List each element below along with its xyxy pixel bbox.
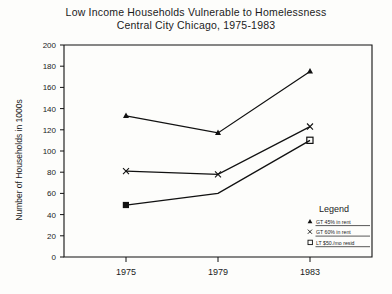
legend-item-gt-45[interactable]: GT 45% in rent [308, 219, 370, 226]
x-tick-labels: 1975 1979 1983 [116, 267, 320, 277]
y-tick-label: 160 [43, 83, 57, 92]
series-gt-45-in-rent [123, 68, 313, 135]
y-tick-label: 100 [43, 147, 57, 156]
line-chart-svg: Number of Households in 1000s 200 180 16… [0, 0, 392, 294]
y-tick-label: 140 [43, 105, 57, 114]
legend: Legend GT 45% in rent GT 60% in rent LT … [308, 204, 370, 247]
plot-frame [64, 45, 372, 257]
x-tick-label: 1979 [208, 267, 228, 277]
legend-label: GT 45% in rent [316, 219, 351, 225]
y-tick-label: 0 [52, 253, 57, 262]
x-axis-ticks [126, 257, 310, 262]
y-tick-label: 80 [47, 168, 56, 177]
y-tick-label: 120 [43, 126, 57, 135]
y-tick-label: 40 [47, 211, 56, 220]
x-tick-label: 1983 [300, 267, 320, 277]
square-marker-icon [308, 240, 312, 244]
y-tick-label: 200 [43, 41, 57, 50]
y-axis-ticks [60, 45, 64, 257]
legend-item-lt-50[interactable]: LT $50./mo resid [308, 240, 370, 247]
chart-root: Low Income Households Vulnerable to Home… [0, 0, 392, 294]
legend-item-gt-60[interactable]: GT 60% in rent [308, 229, 370, 236]
y-tick-label: 180 [43, 62, 57, 71]
y-axis-label: Number of Households in 1000s [14, 99, 24, 220]
y-tick-label: 20 [47, 232, 56, 241]
legend-title: Legend [319, 204, 349, 214]
cross-marker-icon [308, 230, 312, 234]
y-tick-labels: 200 180 160 140 120 100 80 60 40 20 0 [43, 41, 57, 262]
legend-label: GT 60% in rent [316, 229, 351, 235]
y-tick-label: 60 [47, 189, 56, 198]
x-tick-label: 1975 [116, 267, 136, 277]
legend-label: LT $50./mo resid [316, 240, 355, 246]
triangle-marker-icon [308, 219, 313, 223]
